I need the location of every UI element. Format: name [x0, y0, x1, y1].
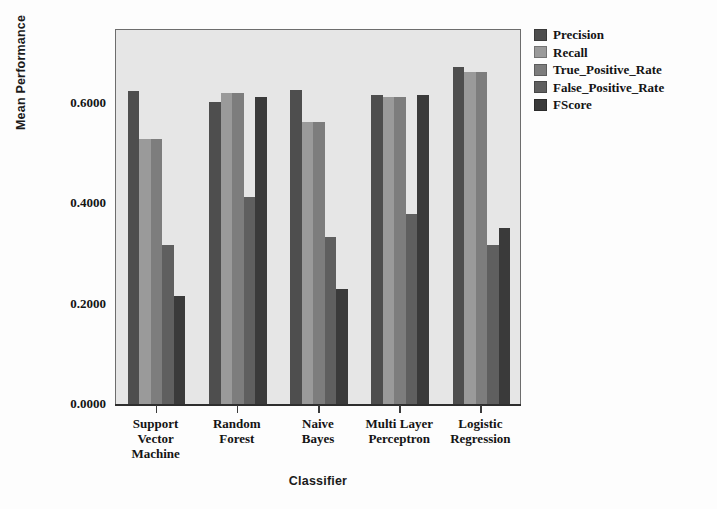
- legend-swatch-icon: [534, 99, 547, 111]
- y-axis-tick-label: 0.4000: [40, 195, 106, 211]
- plot-area: [115, 29, 521, 405]
- bar: [325, 237, 337, 404]
- bar: [313, 122, 325, 404]
- x-axis-group-label: Logistic Regression: [420, 416, 540, 446]
- bar: [221, 93, 233, 404]
- x-axis-tick-mark: [237, 405, 239, 413]
- bar: [487, 245, 499, 404]
- bar: [302, 122, 314, 404]
- bar: [383, 97, 395, 404]
- x-axis-title: Classifier: [115, 474, 521, 488]
- bar: [290, 90, 302, 404]
- bar: [139, 139, 151, 404]
- legend-label: False_Positive_Rate: [553, 81, 664, 94]
- bar: [394, 97, 406, 404]
- x-axis-tick-mark: [318, 405, 320, 413]
- legend-swatch-icon: [534, 64, 547, 76]
- bar: [464, 72, 476, 404]
- bar: [406, 214, 418, 404]
- bar: [128, 91, 140, 404]
- legend-swatch-icon: [534, 46, 547, 58]
- bars-container: [116, 30, 520, 404]
- legend-item[interactable]: False_Positive_Rate: [534, 79, 714, 97]
- legend-label: FScore: [553, 98, 592, 111]
- bar-chart: Mean Performance 0.00000.20000.40000.600…: [0, 0, 717, 509]
- bar: [244, 197, 256, 404]
- y-axis-tick-label: 0.6000: [40, 95, 106, 111]
- legend-label: Precision: [553, 28, 604, 41]
- bar: [174, 296, 186, 404]
- legend-swatch-icon: [534, 81, 547, 93]
- y-axis-tick-label: 0.2000: [40, 296, 106, 312]
- bar: [232, 93, 244, 404]
- chart-legend: PrecisionRecallTrue_Positive_RateFalse_P…: [534, 26, 714, 114]
- bar: [255, 97, 267, 404]
- bar: [336, 289, 348, 404]
- bar: [151, 139, 163, 404]
- y-axis-tick-label: 0.0000: [40, 396, 106, 412]
- legend-item[interactable]: FScore: [534, 96, 714, 114]
- bar: [417, 95, 429, 404]
- x-axis-tick-mark: [399, 405, 401, 413]
- legend-item[interactable]: Recall: [534, 44, 714, 62]
- x-axis-tick-mark: [156, 405, 158, 413]
- bar: [499, 228, 511, 404]
- y-axis-title: Mean Performance: [14, 0, 28, 130]
- legend-label: True_Positive_Rate: [553, 63, 662, 76]
- bar: [453, 67, 465, 404]
- legend-label: Recall: [553, 46, 588, 59]
- bar: [209, 102, 221, 404]
- legend-item[interactable]: Precision: [534, 26, 714, 44]
- bar: [371, 95, 383, 404]
- legend-swatch-icon: [534, 29, 547, 41]
- bar: [476, 72, 488, 404]
- x-axis-tick-mark: [480, 405, 482, 413]
- legend-item[interactable]: True_Positive_Rate: [534, 61, 714, 79]
- bar: [162, 245, 174, 404]
